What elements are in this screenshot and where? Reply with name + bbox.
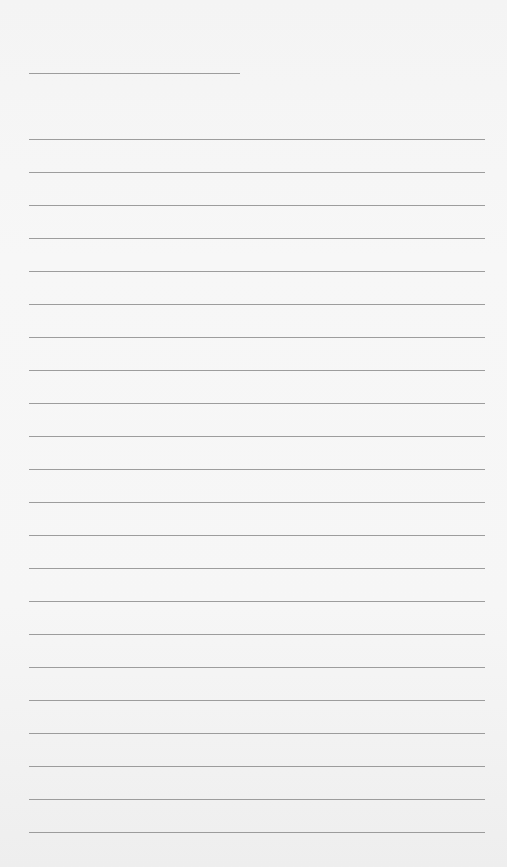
ruled-line [29, 799, 485, 800]
ruled-line [29, 370, 485, 371]
ruled-line [29, 634, 485, 635]
ruled-line [29, 238, 485, 239]
ruled-line [29, 667, 485, 668]
ruled-line [29, 403, 485, 404]
ruled-line [29, 304, 485, 305]
header-line [29, 73, 240, 74]
ruled-line [29, 469, 485, 470]
ruled-line [29, 832, 485, 833]
ruled-line [29, 436, 485, 437]
ruled-line [29, 139, 485, 140]
ruled-line [29, 601, 485, 602]
lined-paper-sheet [0, 0, 507, 867]
ruled-line [29, 535, 485, 536]
ruled-line [29, 700, 485, 701]
ruled-line [29, 172, 485, 173]
ruled-line [29, 766, 485, 767]
ruled-line [29, 502, 485, 503]
ruled-line [29, 205, 485, 206]
ruled-line [29, 568, 485, 569]
ruled-line [29, 271, 485, 272]
ruled-line [29, 337, 485, 338]
ruled-line [29, 733, 485, 734]
